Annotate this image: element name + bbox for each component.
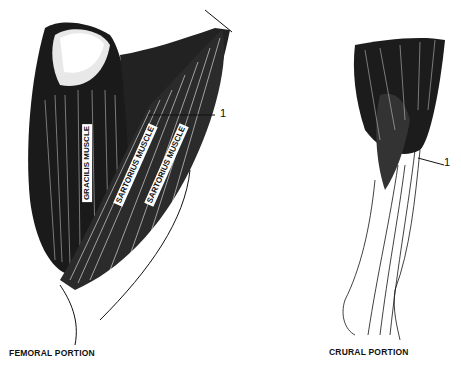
crural-callout-number: 1 xyxy=(444,156,450,168)
femoral-caption: FEMORAL PORTION xyxy=(9,348,95,358)
femoral-callout-number: 1 xyxy=(220,107,226,119)
crural-caption: CRURAL PORTION xyxy=(329,347,409,357)
crural-illustration xyxy=(343,38,445,340)
gracilis-muscle-label: GRACILIS MUSCLE xyxy=(82,124,92,202)
femoral-illustration xyxy=(0,0,461,369)
